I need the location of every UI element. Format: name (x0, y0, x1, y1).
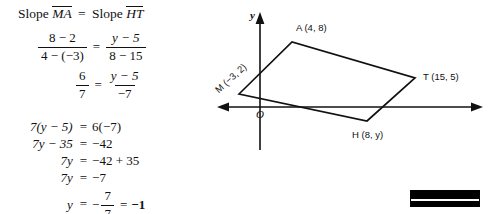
denominator: 8 − 15 (106, 47, 145, 64)
step-relation: = (77, 118, 90, 135)
equals-sign: = (93, 39, 100, 55)
algebra-work-panel: Slope MA = Slope HT 8 − 2 4 − (−3) = y −… (0, 0, 236, 214)
y-axis-arrowhead (256, 12, 265, 24)
final-lhs: y (30, 186, 77, 214)
numerator: 6 (76, 69, 89, 85)
final-answer: −1 (131, 197, 145, 213)
step-lhs: 7y (30, 152, 77, 169)
slope-word-left: Slope (18, 6, 49, 21)
coordinate-diagram-panel: y O M (−3, 2) A (4, 8) T (15, 5) H (8, y… (212, 0, 488, 214)
redaction-bar (410, 190, 480, 207)
slope-equation-heading: Slope MA = Slope HT (18, 6, 143, 22)
step-lhs: 7y (30, 169, 77, 186)
heading-equals: = (78, 6, 86, 21)
equals-sign: = (95, 77, 102, 93)
fraction-left-2: 6 7 (76, 69, 89, 102)
numerator: y − 5 (108, 69, 142, 85)
denominator: 7 (76, 85, 89, 102)
worksheet-page: Slope MA = Slope HT 8 − 2 4 − (−3) = y −… (0, 0, 488, 214)
fraction-right-2: y − 5 −7 (108, 69, 142, 102)
y-axis (256, 12, 265, 150)
denominator: −7 (115, 85, 135, 102)
step-lhs: 7(y − 5) (30, 118, 77, 135)
numerator: 7 (101, 189, 114, 205)
x-axis-arrowhead-left (217, 102, 229, 111)
fraction-right-1: y − 5 8 − 15 (106, 31, 145, 64)
denominator: 4 − (−3) (38, 47, 87, 64)
fraction-left-1: 8 − 2 4 − (−3) (38, 31, 87, 64)
step-relation: = (77, 135, 90, 152)
denominator: 7 (101, 205, 114, 214)
final-minus-sign: − (92, 197, 99, 213)
step-row: 7(y − 5) = 6(−7) (30, 118, 145, 135)
segment-ma-label: MA (52, 6, 72, 21)
step-rhs: −7 (90, 169, 145, 186)
vertex-label-h: H (8, y) (352, 129, 383, 140)
step-lhs: 7y − 35 (30, 135, 77, 152)
equation-row-1: 8 − 2 4 − (−3) = y − 5 8 − 15 (36, 31, 148, 64)
slope-word-right: Slope (92, 6, 123, 21)
quadrilateral-math (239, 42, 415, 121)
vertex-label-a: A (4, 8) (296, 22, 327, 33)
step-rhs: −42 (90, 135, 145, 152)
y-axis-label: y (250, 9, 255, 21)
final-fraction: 7 7 (101, 189, 114, 214)
step-row: 7y = −7 (30, 169, 145, 186)
final-fraction-expression: − 7 7 = −1 (92, 189, 145, 214)
numerator: y − 5 (109, 31, 143, 47)
step-rhs: 6(−7) (90, 118, 145, 135)
equation-row-2: 6 7 = y − 5 −7 (74, 69, 143, 102)
final-step-row: y = − 7 7 = −1 (30, 186, 145, 214)
final-equals: = (120, 197, 127, 213)
step-row: 7y − 35 = −42 (30, 135, 145, 152)
step-relation: = (77, 169, 90, 186)
origin-label: O (256, 108, 264, 120)
final-relation: = (77, 186, 90, 214)
coordinate-plane-svg (212, 0, 488, 214)
step-relation: = (77, 152, 90, 169)
numerator: 8 − 2 (46, 31, 79, 47)
x-axis-arrowhead-right (471, 102, 483, 111)
solution-steps-table: 7(y − 5) = 6(−7) 7y − 35 = −42 7y = −42 … (30, 118, 145, 214)
vertex-label-t: T (15, 5) (423, 71, 459, 82)
final-rhs: − 7 7 = −1 (90, 186, 145, 214)
segment-ht-label: HT (126, 6, 143, 21)
step-rhs: −42 + 35 (90, 152, 145, 169)
redaction-bar-gap (411, 199, 479, 201)
step-row: 7y = −42 + 35 (30, 152, 145, 169)
